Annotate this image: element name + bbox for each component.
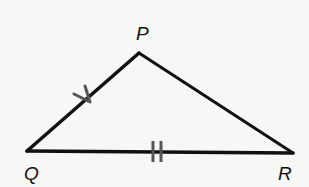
triangle-diagram: P Q R — [0, 0, 309, 187]
vertex-label-q: Q — [24, 163, 39, 184]
side-pq — [27, 53, 139, 151]
vertex-label-r: R — [278, 163, 292, 184]
vertex-label-p: P — [136, 23, 149, 44]
tick-mark-pq — [74, 86, 90, 102]
side-pr — [139, 53, 293, 153]
triangle-svg: P Q R — [0, 0, 309, 187]
